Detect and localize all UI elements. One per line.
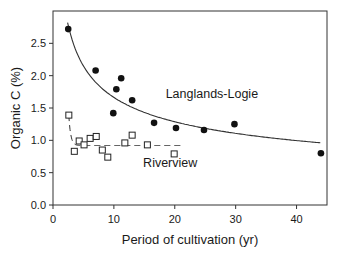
chart-labels: Langlands-LogieRiverview [143,87,258,170]
y-axis-label: Organic C (%) [8,67,23,149]
langlands-logie-point [118,75,125,82]
riverview-point [66,112,72,118]
plot-border [53,11,327,205]
y-tick-label: 1.0 [31,134,46,146]
langlands-logie-point [318,150,325,157]
riverview-point [71,148,77,154]
plot-frame [53,11,327,205]
langlands-logie-point [151,120,158,127]
riverview-point [129,132,135,138]
axis-ticks: 0102030400.00.51.01.52.02.5 [31,37,303,225]
riverview-point [93,133,99,139]
x-axis-label: Period of cultivation (yr) [122,232,259,247]
y-tick-label: 2.0 [31,70,46,82]
x-tick-label: 30 [230,213,242,225]
langlands-logie-point [201,127,208,134]
langlands-logie-point [65,26,72,33]
fit-lines [68,23,321,146]
x-tick-label: 0 [50,213,56,225]
x-tick-label: 10 [108,213,120,225]
langlands-logie-point [173,125,180,132]
langlands-logie-point [231,121,238,128]
langlands-logie-point [113,86,120,93]
y-tick-label: 0.0 [31,199,46,211]
langlands-logie-point [110,110,117,117]
y-tick-label: 1.5 [31,102,46,114]
series-annotation: Langlands-Logie [166,87,258,101]
riverview-point [105,154,111,160]
x-tick-label: 40 [290,213,302,225]
series-annotation: Riverview [143,156,198,170]
y-tick-label: 0.5 [31,167,46,179]
y-tick-label: 2.5 [31,37,46,49]
langlands-logie-fit-line [68,23,321,143]
langlands-logie-point [92,67,99,74]
x-tick-label: 20 [169,213,181,225]
riverview-point [144,142,150,148]
riverview-point [87,135,93,141]
riverview-point [122,140,128,146]
riverview-point [99,147,105,153]
riverview-point [81,142,87,148]
langlands-logie-point [129,97,136,104]
organic-carbon-chart: 0102030400.00.51.01.52.02.5 Langlands-Lo… [0,0,338,258]
